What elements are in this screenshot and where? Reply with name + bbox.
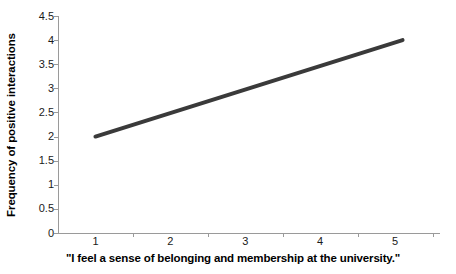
y-tick-label: 2.5 (20, 107, 54, 118)
x-axis-tick-labels: 12345 (0, 236, 456, 252)
y-tick-label: 2 (20, 131, 54, 142)
y-axis-tick-labels: 00.511.522.533.544.5 (16, 0, 54, 274)
axes (54, 16, 440, 237)
x-tick-label: 2 (150, 236, 190, 247)
y-tick-label: 4 (20, 35, 54, 46)
data-series (95, 40, 402, 136)
x-tick-label: 3 (225, 236, 265, 247)
plot-area (0, 0, 456, 274)
y-tick-label: 0.5 (20, 203, 54, 214)
y-tick-label: 1.5 (20, 155, 54, 166)
y-axis-title: Frequency of positive interactions (2, 0, 20, 250)
x-axis-title: "I feel a sense of belonging and members… (18, 252, 448, 264)
y-tick-label: 4.5 (20, 11, 54, 22)
y-tick-label: 1 (20, 179, 54, 190)
chart-figure: 00.511.522.533.544.5 12345 Frequency of … (0, 0, 456, 274)
series-line (95, 40, 402, 136)
x-tick-label: 5 (375, 236, 415, 247)
x-tick-label: 4 (300, 236, 340, 247)
y-tick-label: 3.5 (20, 59, 54, 70)
y-tick-label: 3 (20, 83, 54, 94)
x-tick-label: 1 (75, 236, 115, 247)
